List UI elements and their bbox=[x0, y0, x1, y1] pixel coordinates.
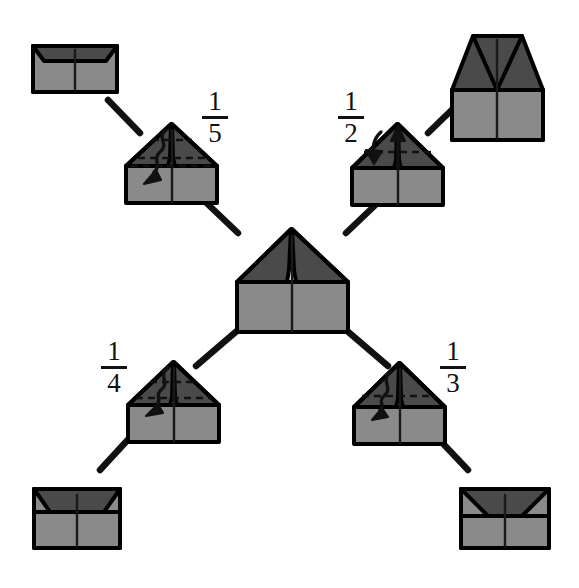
label-one-half-denominator: 2 bbox=[338, 120, 364, 147]
connector-center-to-step-one-third bbox=[346, 330, 388, 366]
label-one-third-numerator: 1 bbox=[440, 338, 466, 365]
figure-result-one-half bbox=[452, 36, 543, 140]
figure-result-one-third bbox=[461, 489, 549, 548]
label-one-fifth-numerator: 1 bbox=[202, 88, 228, 115]
figure-step-one-third bbox=[354, 363, 445, 444]
figure-result-one-fifth bbox=[33, 46, 117, 92]
label-one-third: 1 3 bbox=[440, 338, 466, 397]
figure-result-one-fourth bbox=[34, 489, 120, 548]
connector-step-to-result-one-fifth bbox=[108, 100, 140, 133]
origami-fraction-diagram: .lt { fill: #8a8a8a; stroke: #000000; st… bbox=[0, 0, 579, 588]
label-one-fourth-numerator: 1 bbox=[101, 338, 127, 365]
label-one-fifth-denominator: 5 bbox=[202, 120, 228, 147]
diagram-canvas: .lt { fill: #8a8a8a; stroke: #000000; st… bbox=[0, 0, 579, 588]
figure-step-one-half bbox=[352, 124, 443, 205]
label-one-half-numerator: 1 bbox=[338, 88, 364, 115]
label-one-half: 1 2 bbox=[338, 88, 364, 147]
label-one-fourth: 1 4 bbox=[101, 338, 127, 397]
figure-center-base-fold bbox=[237, 229, 348, 332]
connector-center-to-step-one-fourth bbox=[196, 330, 238, 366]
figure-step-one-fourth bbox=[128, 362, 219, 442]
label-one-third-denominator: 3 bbox=[440, 370, 466, 397]
label-one-fourth-denominator: 4 bbox=[101, 370, 127, 397]
label-one-fifth: 1 5 bbox=[202, 88, 228, 147]
